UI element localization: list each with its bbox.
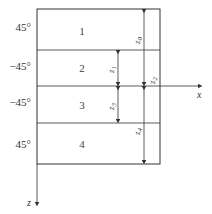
dim-label-z1: z1 (106, 66, 118, 74)
dim-label-z4: z4 (132, 127, 144, 136)
dim-label-z3: z3 (106, 102, 118, 111)
z-axis-label: z (26, 197, 31, 208)
svg-text:z3: z3 (106, 102, 118, 111)
laminate-box (37, 9, 160, 164)
laminate-diagram: x z 1 2 3 4 45° −45° −45° 45° z0 z1 z2 z… (0, 0, 212, 214)
dim-label-z0: z0 (132, 36, 144, 45)
layer-angle-3: −45° (9, 96, 31, 108)
layer-number-4: 4 (79, 138, 85, 150)
svg-text:z0: z0 (132, 36, 144, 45)
dim-label-z2: z2 (147, 76, 159, 85)
layer-angle-2: −45° (9, 60, 31, 72)
svg-text:z2: z2 (147, 76, 159, 85)
layer-number-1: 1 (79, 25, 85, 37)
layer-angle-4: 45° (16, 138, 31, 150)
layer-angle-1: 45° (16, 21, 31, 33)
x-axis-label: x (196, 89, 202, 100)
layer-number-2: 2 (79, 62, 85, 74)
layer-number-3: 3 (79, 99, 85, 111)
svg-text:z1: z1 (106, 66, 118, 74)
svg-text:z4: z4 (132, 127, 144, 136)
